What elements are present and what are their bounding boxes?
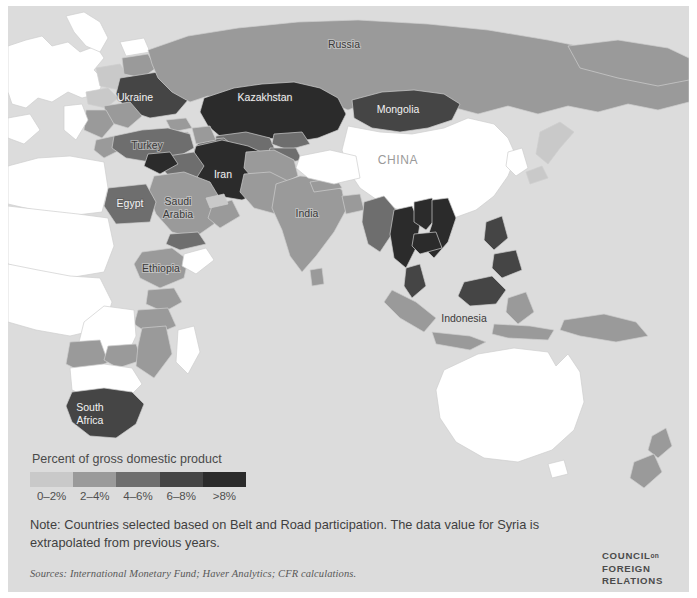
map-label-saudi-arabia-line1: Saudi — [165, 195, 192, 207]
choropleth-map: Russia Ukraine Kazakhstan Mongolia Turke… — [8, 6, 689, 592]
map-label-iran: Iran — [214, 168, 232, 180]
map-label-indonesia: Indonesia — [441, 312, 487, 324]
map-label-egypt: Egypt — [117, 197, 144, 209]
map-label-south-africa-line2: Africa — [77, 414, 104, 426]
country-bangladesh — [342, 194, 364, 214]
map-svg: Russia Ukraine Kazakhstan Mongolia Turke… — [8, 6, 689, 592]
map-label-kazakhstan: Kazakhstan — [238, 91, 293, 103]
map-label-india: India — [296, 207, 319, 219]
map-label-ethiopia: Ethiopia — [142, 262, 180, 274]
map-label-mongolia: Mongolia — [377, 103, 420, 115]
map-figure: Russia Ukraine Kazakhstan Mongolia Turke… — [8, 6, 689, 592]
map-label-saudi-arabia-line2: Arabia — [163, 208, 194, 220]
country-north-africa — [8, 156, 108, 216]
map-label-russia: Russia — [328, 38, 360, 50]
country-sri-lanka — [310, 268, 324, 286]
map-label-ukraine: Ukraine — [117, 91, 153, 103]
screenshot-root: Russia Ukraine Kazakhstan Mongolia Turke… — [0, 0, 697, 598]
map-label-china: CHINA — [378, 153, 418, 167]
map-label-turkey: Turkey — [131, 139, 163, 151]
map-label-south-africa-line1: South — [76, 401, 104, 413]
